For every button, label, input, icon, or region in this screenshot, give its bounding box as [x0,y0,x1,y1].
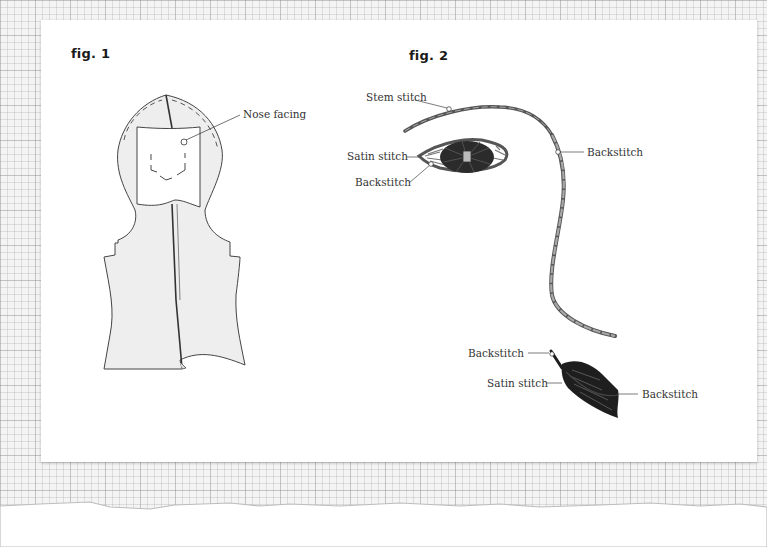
label-leaf-vein-backstitch: Backstitch [642,388,698,400]
label-leaf-stem-backstitch: Backstitch [468,347,524,359]
label-leaf-satin-stitch: Satin stitch [487,377,548,389]
label-stem-stitch: Stem stitch [366,91,427,103]
label-eye-backstitch: Backstitch [355,176,411,188]
hood-pattern-illustration [104,95,245,369]
torn-paper-edge [0,500,767,547]
label-nose-facing: Nose facing [243,108,306,120]
label-face-backstitch: Backstitch [587,146,643,158]
illustration-card: fig. 1 fig. 2 [41,20,757,462]
label-eye-satin-stitch: Satin stitch [347,150,408,162]
